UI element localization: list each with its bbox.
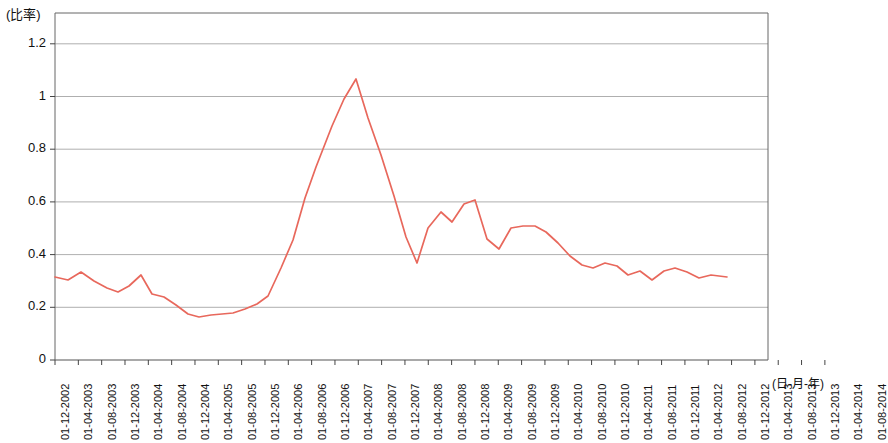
x-tick-label: 01-08-2004 xyxy=(176,384,188,440)
x-axis-tickmarks xyxy=(55,360,833,365)
x-tick-label: 01-12-2003 xyxy=(129,384,141,440)
x-tick-label: 01-12-2013 xyxy=(829,384,841,440)
x-tick-label: 01-08-2003 xyxy=(106,384,118,440)
x-tick-label: 01-08-2012 xyxy=(736,384,748,440)
x-tick-label: 01-12-2007 xyxy=(409,384,421,440)
x-tick-label: 01-12-2010 xyxy=(619,384,631,440)
y-tick-label: 0 xyxy=(4,351,46,366)
x-tick-label: 01-12-2009 xyxy=(549,384,561,440)
x-tick-label: 01-08-2011 xyxy=(666,385,678,440)
x-tick-label: 01-08-2009 xyxy=(526,384,538,440)
x-tick-label: 01-04-2009 xyxy=(502,384,514,440)
y-tick-label: 1 xyxy=(4,88,46,103)
y-tick-label: 0.6 xyxy=(4,193,46,208)
x-tick-label: 01-08-2013 xyxy=(806,384,818,440)
y-tick-label: 0.2 xyxy=(4,298,46,313)
x-tick-label: 01-04-2011 xyxy=(642,385,654,440)
y-tick-label: 0.8 xyxy=(4,140,46,155)
y-tick-label: 1.2 xyxy=(4,35,46,50)
x-tick-label: 01-08-2005 xyxy=(246,384,258,440)
x-tick-label: 01-04-2014 xyxy=(852,384,864,440)
x-tick-label: 01-12-2004 xyxy=(199,384,211,440)
x-tick-label: 01-12-2006 xyxy=(339,384,351,440)
data-series-line xyxy=(55,79,727,317)
x-tick-label: 01-12-2008 xyxy=(479,384,491,440)
x-tick-label: 01-04-2008 xyxy=(432,384,444,440)
x-tick-label: 01-04-2010 xyxy=(572,384,584,440)
x-tick-label: 01-08-2014 xyxy=(876,384,888,440)
x-tick-label: 01-04-2005 xyxy=(222,384,234,440)
x-tick-label: 01-04-2006 xyxy=(292,384,304,440)
axis-frame xyxy=(55,13,768,360)
y-axis-tickmarks xyxy=(50,44,55,360)
x-tick-label: 01-08-2008 xyxy=(456,384,468,440)
x-tick-label: 01-08-2006 xyxy=(316,384,328,440)
x-tick-label: 01-08-2007 xyxy=(386,384,398,440)
x-tick-label: 01-04-2007 xyxy=(362,384,374,440)
x-tick-label: 01-12-2012 xyxy=(759,384,771,440)
gridlines-group xyxy=(55,44,768,360)
x-tick-label: 01-08-2010 xyxy=(596,384,608,440)
y-tick-label: 0.4 xyxy=(4,246,46,261)
x-tick-label: 01-04-2003 xyxy=(82,384,94,440)
x-tick-label: 01-12-2011 xyxy=(689,385,701,440)
x-tick-label: 01-12-2005 xyxy=(269,384,281,440)
x-tick-label: 01-04-2013 xyxy=(782,384,794,440)
x-tick-label: 01-04-2004 xyxy=(152,384,164,440)
x-tick-label: 01-04-2012 xyxy=(712,384,724,440)
x-tick-label: 01-12-2002 xyxy=(59,384,71,440)
